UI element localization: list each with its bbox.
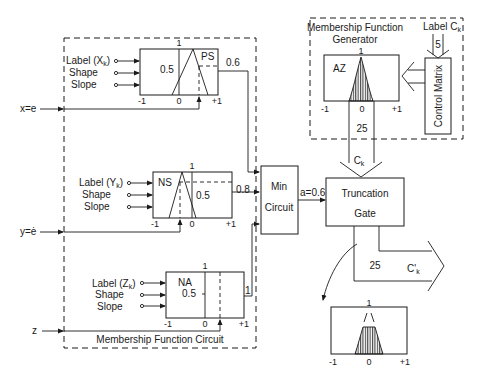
membership-block-x: Label (Xk) Shape Slope 1 PS 0.5 -1 0 +1 … — [66, 38, 240, 106]
slope-input-z: Slope — [97, 301, 123, 312]
svg-text:0: 0 — [202, 319, 207, 329]
svg-text:5: 5 — [435, 39, 441, 50]
min-output-value: a=0.6 — [300, 187, 326, 198]
slope-input-x: Slope — [71, 79, 97, 90]
shape-input-y: Shape — [82, 189, 111, 200]
svg-text:Min: Min — [271, 181, 287, 192]
svg-text:1: 1 — [176, 38, 181, 48]
output-z-value: 1 — [245, 285, 251, 296]
svg-text:0: 0 — [176, 96, 181, 106]
shape-input-x: Shape — [69, 67, 98, 78]
svg-text:-1: -1 — [138, 96, 146, 106]
output-y-value: 0.8 — [236, 184, 250, 195]
set-name-ps: PS — [201, 51, 215, 62]
svg-text:Circuit: Circuit — [265, 202, 294, 213]
input-x: x=e — [20, 97, 199, 114]
svg-text:Truncation: Truncation — [342, 188, 389, 199]
svg-text:1: 1 — [202, 261, 207, 271]
membership-circuit-title: Membership Function Circuit — [96, 334, 223, 345]
fuzzy-inference-diagram: Membership Function Circuit Label (Xk) S… — [0, 0, 482, 381]
set-name-na: NA — [178, 277, 192, 288]
svg-text:25: 25 — [356, 123, 368, 134]
svg-text:25: 25 — [369, 260, 381, 271]
svg-text:1: 1 — [189, 161, 194, 171]
svg-text:0.5: 0.5 — [196, 190, 210, 201]
set-name-ns: NS — [158, 177, 172, 188]
svg-text:+1: +1 — [239, 319, 249, 329]
ck-prime-label: C'k — [407, 263, 420, 275]
control-matrix-label: Control Matrix — [433, 65, 444, 127]
svg-text:+1: +1 — [226, 219, 236, 229]
membership-function-generator: Membership Function Generator 1 AZ -1 0 … — [307, 18, 463, 177]
svg-text:-1: -1 — [164, 319, 172, 329]
label-input-x: Label (Xk) — [66, 55, 110, 67]
svg-text:-1: -1 — [329, 357, 337, 367]
svg-text:0: 0 — [189, 219, 194, 229]
svg-text:0: 0 — [366, 357, 371, 367]
svg-text:Gate: Gate — [354, 208, 376, 219]
svg-text:Membership Function: Membership Function — [307, 22, 403, 33]
svg-text:+1: +1 — [392, 104, 402, 114]
label-input-y: Label (Yk) — [79, 177, 123, 189]
result-plot: 1 -1 0 +1 — [329, 298, 410, 367]
svg-text:-1: -1 — [321, 104, 329, 114]
svg-text:+1: +1 — [212, 96, 222, 106]
svg-text:1: 1 — [358, 46, 363, 56]
shape-input-z: Shape — [95, 289, 124, 300]
ck-bus-label: Ck — [354, 155, 365, 167]
output-x-value: 0.6 — [226, 57, 240, 68]
label-ck-input: Label Ck — [423, 21, 461, 33]
svg-text:y=ė: y=ė — [20, 226, 37, 237]
svg-text:0: 0 — [359, 104, 364, 114]
svg-text:0.5: 0.5 — [182, 288, 196, 299]
svg-text:Generator: Generator — [332, 34, 378, 45]
truncation-gate: Truncation Gate — [326, 178, 404, 226]
svg-text:1: 1 — [366, 298, 371, 308]
svg-text:-1: -1 — [151, 219, 159, 229]
svg-text:x=e: x=e — [20, 103, 37, 114]
membership-block-z: Label (Zk) Shape Slope 1 NA 0.5 -1 0 +1 … — [92, 261, 251, 329]
svg-text:0.5: 0.5 — [160, 64, 174, 75]
slope-input-y: Slope — [84, 201, 110, 212]
min-circuit: Min Circuit a=0.6 — [261, 166, 326, 234]
membership-block-y: Label (Yk) Shape Slope 1 NS 0.5 -1 0 +1 … — [79, 161, 250, 229]
svg-text:z: z — [32, 325, 37, 336]
truncation-output-bus: 25 C'k — [323, 226, 444, 300]
svg-text:+1: +1 — [400, 357, 410, 367]
set-name-az: AZ — [333, 63, 346, 74]
